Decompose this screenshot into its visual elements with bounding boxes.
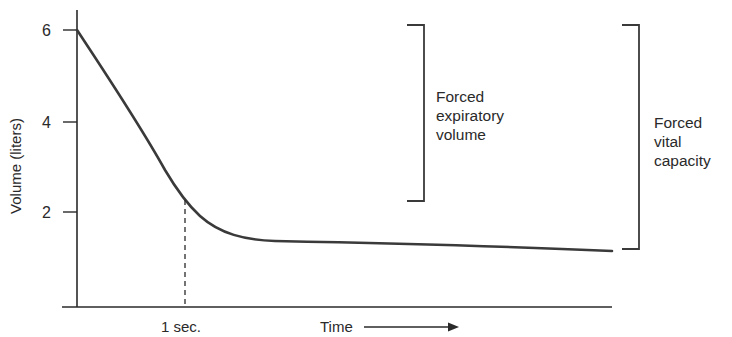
y-ticks bbox=[63, 30, 77, 212]
fvc-label-line-2: vital bbox=[654, 133, 682, 150]
y-axis-title: Volume (liters) bbox=[7, 118, 24, 214]
fev-label-line-1: Forced bbox=[436, 88, 484, 105]
spirometry-chart: 6 4 2 Volume (liters) 1 sec. Time Forced… bbox=[0, 0, 732, 337]
volume-curve bbox=[77, 30, 612, 251]
fev-bracket bbox=[407, 25, 424, 201]
fvc-label-line-1: Forced bbox=[654, 114, 702, 131]
x-axis-title: Time bbox=[320, 318, 353, 335]
y-tick-label-2: 2 bbox=[42, 204, 51, 221]
fev-label-line-3: volume bbox=[436, 126, 486, 143]
y-tick-label-6: 6 bbox=[42, 22, 51, 39]
fvc-bracket bbox=[622, 25, 639, 249]
y-tick-label-4: 4 bbox=[42, 114, 51, 131]
fev-label-line-2: expiratory bbox=[436, 107, 504, 124]
fvc-label-line-3: capacity bbox=[654, 152, 711, 169]
x-tick-label-1-sec: 1 sec. bbox=[161, 318, 201, 335]
time-arrow-icon bbox=[364, 323, 459, 332]
